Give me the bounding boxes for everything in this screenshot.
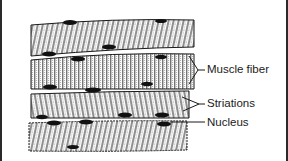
label-nucleus: Nucleus <box>207 117 249 129</box>
muscle-fiber-3 <box>31 87 189 119</box>
diagram-frame: Muscle fiber Striations Nucleus <box>0 0 288 161</box>
label-striations: Striations <box>207 98 255 110</box>
muscle-fiber-2 <box>31 54 194 90</box>
muscle-fibers-illustration <box>2 0 288 161</box>
nucleus-shape <box>42 51 56 56</box>
label-muscle-fiber: Muscle fiber <box>207 64 269 76</box>
nucleus-shape <box>63 20 77 25</box>
nucleus-shape <box>43 85 57 90</box>
nucleus-shape <box>71 56 85 61</box>
nucleus-shape <box>157 121 171 126</box>
nucleus-shape <box>85 87 101 92</box>
nucleus-shape <box>155 55 167 59</box>
nucleus-shape <box>141 82 153 86</box>
nucleus-shape <box>155 19 167 23</box>
nucleus-shape <box>155 112 169 117</box>
nucleus-shape <box>118 112 132 117</box>
nucleus-shape <box>67 145 79 149</box>
nucleus-shape <box>36 115 48 119</box>
nucleus-shape <box>47 121 61 126</box>
muscle-fiber-4 <box>29 120 187 152</box>
muscle-fiber-1 <box>31 19 194 57</box>
nucleus-shape <box>102 44 116 49</box>
nucleus-shape <box>79 120 93 125</box>
